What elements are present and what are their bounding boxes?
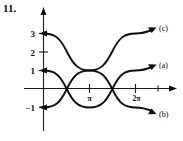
x-axis-label-pi: π [87,94,92,103]
curve-label-c: (c) [159,24,168,33]
y-axis-label-3: 3 [31,29,36,39]
curve-b-group [39,71,157,115]
curve-c-group [39,27,157,70]
y-axis-label-2: 2 [31,48,36,58]
curve-c-path [44,30,153,71]
graph-plot: 3 2 1 −1 π 2π (c) (a) (b) [0,0,183,141]
y-axis-label-1: 1 [31,66,36,76]
curve-label-b: (b) [159,110,169,119]
curve-label-a: (a) [159,61,168,70]
y-axis-label-negative-1: −1 [25,103,35,113]
x-axis-label-2pi: 2π [133,94,142,103]
y-axis-arrow-icon [41,7,47,15]
figure-container: 11. [0,0,183,141]
x-axis-arrow-icon [169,86,177,92]
